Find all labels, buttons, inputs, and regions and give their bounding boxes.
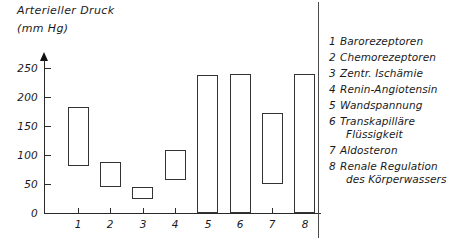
x-tick-label-3: 3 — [136, 218, 150, 230]
x-tick-3 — [143, 208, 144, 214]
legend-item-2: 2Chemorezeptoren — [329, 51, 468, 64]
x-tick-1 — [78, 208, 79, 214]
legend-item-1: 1Barorezeptoren — [329, 35, 468, 48]
legend-number-1: 1 — [329, 35, 340, 48]
legend-label-7: Aldosteron — [340, 144, 468, 157]
y-tick-label-0: 0 — [8, 207, 38, 219]
bar-2 — [100, 162, 121, 187]
bar-6 — [230, 74, 251, 213]
x-tick-4 — [175, 208, 176, 214]
legend-number-7: 7 — [329, 144, 340, 157]
y-tick-label-150: 150 — [8, 120, 38, 132]
y-axis-line — [44, 60, 45, 213]
bar-5 — [197, 75, 218, 213]
y-tick-label-250: 250 — [8, 62, 38, 74]
bar-4 — [165, 150, 186, 180]
x-tick-label-7: 7 — [265, 218, 279, 230]
legend-label-6-cont: Flüssigkeit — [340, 128, 468, 141]
legend-list: 1Barorezeptoren2Chemorezeptoren3Zentr. I… — [329, 35, 468, 189]
y-tick-150 — [45, 126, 51, 127]
x-tick-label-2: 2 — [103, 218, 117, 230]
legend-label-6: TranskapilläreFlüssigkeit — [340, 115, 468, 141]
bar-3 — [132, 187, 153, 199]
legend-item-7: 7Aldosteron — [329, 144, 468, 157]
legend-label-8: Renale Regulationdes Körperwassers — [340, 160, 468, 186]
y-tick-label-200: 200 — [8, 91, 38, 103]
x-tick-7 — [272, 208, 273, 214]
y-tick-label-50: 50 — [8, 178, 38, 190]
legend-number-2: 2 — [329, 51, 340, 64]
legend-label-1: Barorezeptoren — [340, 35, 468, 48]
legend-number-4: 4 — [329, 83, 340, 96]
legend-number-8: 8 — [329, 160, 340, 173]
y-tick-label-100: 100 — [8, 149, 38, 161]
x-tick-label-5: 5 — [201, 218, 215, 230]
legend-item-4: 4Renin-Angiotensin — [329, 83, 468, 96]
legend-label-5: Wandspannung — [340, 99, 468, 112]
legend: 1Barorezeptoren2Chemorezeptoren3Zentr. I… — [318, 2, 468, 238]
bar-1 — [68, 107, 89, 166]
chart-figure: Arterieller Druck (mm Hg) 05010015020025… — [0, 0, 468, 240]
legend-item-6: 6TranskapilläreFlüssigkeit — [329, 115, 468, 141]
x-tick-label-4: 4 — [168, 218, 182, 230]
legend-number-5: 5 — [329, 99, 340, 112]
legend-number-3: 3 — [329, 67, 340, 80]
x-axis-line — [44, 213, 321, 214]
x-tick-label-1: 1 — [71, 218, 85, 230]
legend-item-8: 8Renale Regulationdes Körperwassers — [329, 160, 468, 186]
legend-item-3: 3Zentr. Ischämie — [329, 67, 468, 80]
x-tick-2 — [110, 208, 111, 214]
legend-label-3: Zentr. Ischämie — [340, 67, 468, 80]
y-tick-0 — [45, 213, 51, 214]
x-tick-label-8: 8 — [298, 218, 312, 230]
legend-label-4: Renin-Angiotensin — [340, 83, 468, 96]
legend-number-6: 6 — [329, 115, 340, 128]
x-tick-label-6: 6 — [233, 218, 247, 230]
bar-7 — [262, 113, 283, 184]
legend-label-2: Chemorezeptoren — [340, 51, 468, 64]
y-axis-title-unit: (mm Hg) — [17, 22, 69, 35]
legend-item-5: 5Wandspannung — [329, 99, 468, 112]
y-tick-250 — [45, 68, 51, 69]
legend-label-8-cont: des Körperwassers — [340, 173, 468, 186]
y-tick-100 — [45, 155, 51, 156]
y-axis-title-line1: Arterieller Druck — [17, 4, 115, 17]
y-tick-50 — [45, 184, 51, 185]
bar-8 — [294, 74, 315, 213]
y-tick-200 — [45, 97, 51, 98]
